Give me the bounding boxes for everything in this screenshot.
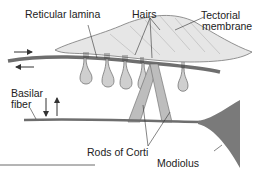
label-reticular-lamina: Reticular lamina (25, 9, 100, 20)
modiolus (198, 100, 240, 168)
label-rods-of-corti: Rods of Corti (87, 147, 148, 158)
rods-of-corti (128, 64, 172, 122)
label-modiolus: Modiolus (157, 158, 199, 169)
basilar-fiber (24, 119, 200, 122)
label-basilar-2: fiber (11, 99, 31, 110)
label-tectorial-2: membrane (202, 21, 252, 32)
label-hairs: Hairs (132, 9, 157, 20)
